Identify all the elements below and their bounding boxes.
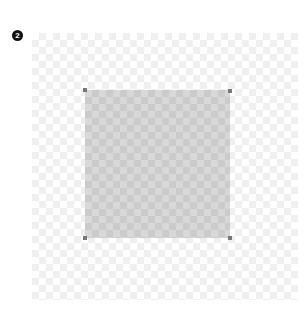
selection-rectangle[interactable]: [85, 90, 230, 238]
resize-handle-bottom-left[interactable]: [83, 236, 87, 240]
resize-handle-bottom-right[interactable]: [228, 236, 232, 240]
resize-handle-top-right[interactable]: [228, 89, 232, 93]
resize-handle-top-left[interactable]: [83, 88, 87, 92]
step-number-badge: 2: [12, 30, 23, 41]
